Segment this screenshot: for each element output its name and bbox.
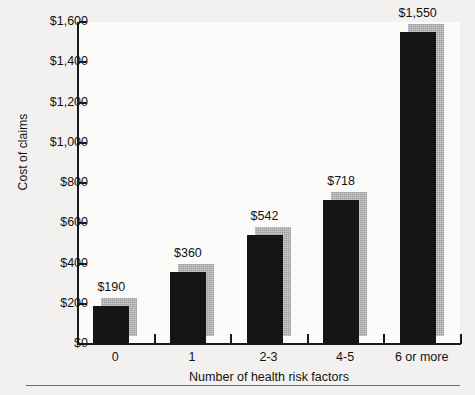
x-tick-mark xyxy=(460,334,462,344)
bar-group[interactable]: $718 xyxy=(323,22,375,344)
y-tick-mark xyxy=(79,21,87,23)
x-axis-title: Number of health risk factors xyxy=(77,370,461,384)
bar-value-label: $718 xyxy=(309,174,373,188)
y-tick-mark xyxy=(79,222,87,224)
bar-chart-figure: Cost of claims $0$200$400$600$800$1,000$… xyxy=(0,0,475,395)
y-tick-mark xyxy=(79,303,87,305)
bottom-divider-rule xyxy=(26,385,460,386)
y-axis-title: Cost of claims xyxy=(16,82,30,222)
bar-group[interactable]: $542 xyxy=(247,22,299,344)
bar-front[interactable] xyxy=(247,235,283,344)
x-tick-mark xyxy=(230,334,232,344)
x-category-label: 6 or more xyxy=(367,350,475,364)
bar-group[interactable]: $190 xyxy=(93,22,145,344)
y-tick-mark xyxy=(79,343,87,345)
y-tick-mark xyxy=(79,263,87,265)
y-tick-mark xyxy=(79,182,87,184)
x-tick-mark xyxy=(307,334,309,344)
y-tick-mark xyxy=(79,142,87,144)
bar-value-label: $360 xyxy=(156,246,220,260)
bar-front[interactable] xyxy=(93,306,129,344)
x-tick-mark xyxy=(383,334,385,344)
bar-value-label: $190 xyxy=(79,280,143,294)
bar-group[interactable]: $360 xyxy=(170,22,222,344)
bar-group[interactable]: $1,550 xyxy=(400,22,452,344)
y-tick-mark xyxy=(79,61,87,63)
y-tick-mark xyxy=(79,102,87,104)
bar-front[interactable] xyxy=(323,200,359,344)
bar-value-label: $542 xyxy=(233,209,297,223)
x-tick-mark xyxy=(154,334,156,344)
bar-front[interactable] xyxy=(170,272,206,344)
bar-front[interactable] xyxy=(400,32,436,344)
bar-value-label: $1,550 xyxy=(386,6,450,20)
